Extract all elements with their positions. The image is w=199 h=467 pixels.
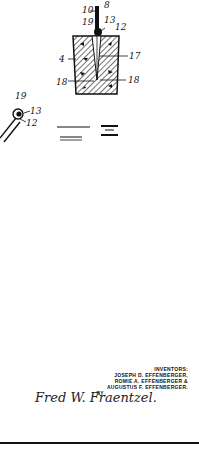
attorney-signature: Fred W. Fraentzel. bbox=[35, 390, 157, 405]
ref-numeral-18-left: 18 bbox=[56, 78, 67, 87]
ref-numeral-19: 19 bbox=[82, 18, 93, 27]
ref-numeral-8: 8 bbox=[104, 1, 110, 10]
ref-numeral-10: 10 bbox=[82, 6, 93, 15]
ref-numeral-13: 13 bbox=[104, 16, 115, 25]
ref-numeral-13-detail: 13 bbox=[30, 107, 41, 116]
ref-numeral-18-right: 18 bbox=[128, 76, 139, 85]
ref-numeral-12: 12 bbox=[115, 23, 126, 32]
figure-label-graphic bbox=[57, 125, 118, 140]
bottom-border-line bbox=[0, 442, 199, 444]
ref-numeral-4: 4 bbox=[59, 55, 65, 64]
ref-numeral-12-detail: 12 bbox=[26, 119, 37, 128]
ref-numeral-17: 17 bbox=[129, 52, 140, 61]
ref-numeral-19-detail: 19 bbox=[15, 92, 26, 101]
